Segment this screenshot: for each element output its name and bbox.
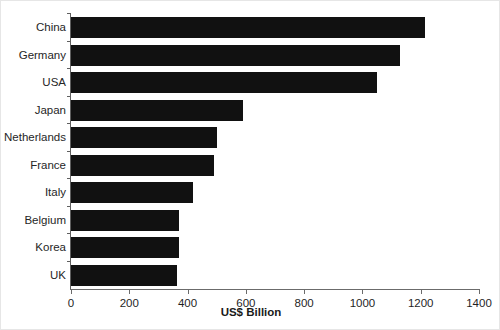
x-axis-tick <box>129 289 130 294</box>
x-axis-tick <box>421 289 422 294</box>
category-label: UK <box>50 265 66 286</box>
bar-row: Germany <box>71 42 479 70</box>
x-axis-tick <box>479 289 480 294</box>
bar <box>71 17 425 38</box>
category-label: France <box>30 155 66 176</box>
x-axis-title: US$ Billion <box>1 306 500 318</box>
x-axis-tick <box>246 289 247 294</box>
bar <box>71 265 177 286</box>
bar-row: USA <box>71 69 479 97</box>
category-label: USA <box>42 72 66 93</box>
category-label: Korea <box>35 237 66 258</box>
category-label: China <box>36 17 66 38</box>
category-label: Italy <box>45 182 66 203</box>
category-label: Japan <box>35 100 66 121</box>
x-axis-tick <box>188 289 189 294</box>
bar <box>71 210 179 231</box>
category-label: Belgium <box>24 210 66 231</box>
bar <box>71 127 217 148</box>
bar <box>71 155 214 176</box>
y-axis-tick <box>67 151 71 152</box>
y-axis-tick <box>67 13 71 14</box>
bar-row: Japan <box>71 97 479 125</box>
bar <box>71 182 193 203</box>
bar-row: Italy <box>71 179 479 207</box>
bar <box>71 45 400 66</box>
y-axis-tick <box>67 233 71 234</box>
bar-row: Netherlands <box>71 124 479 152</box>
bar <box>71 237 179 258</box>
bar-row: China <box>71 14 479 42</box>
y-axis-tick <box>67 206 71 207</box>
x-axis-tick <box>362 289 363 294</box>
y-axis-tick <box>67 178 71 179</box>
plot-area: ChinaGermanyUSAJapanNetherlandsFranceIta… <box>71 14 479 289</box>
category-label: Germany <box>19 45 66 66</box>
x-axis-line <box>70 289 480 290</box>
y-axis-tick <box>67 123 71 124</box>
x-axis-tick <box>71 289 72 294</box>
y-axis-tick <box>67 96 71 97</box>
y-axis-tick <box>67 41 71 42</box>
category-label: Netherlands <box>4 127 66 148</box>
bar-chart-figure: ChinaGermanyUSAJapanNetherlandsFranceIta… <box>0 0 500 330</box>
bar-row: Korea <box>71 234 479 262</box>
bar-row: UK <box>71 262 479 290</box>
bar <box>71 100 243 121</box>
x-axis-tick <box>304 289 305 294</box>
bar <box>71 72 377 93</box>
bar-row: France <box>71 152 479 180</box>
y-axis-tick <box>67 261 71 262</box>
y-axis-tick <box>67 68 71 69</box>
bar-row: Belgium <box>71 207 479 235</box>
